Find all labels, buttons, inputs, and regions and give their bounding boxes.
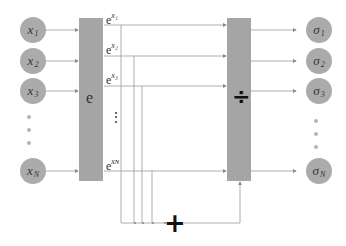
input-node-x2: x2	[20, 48, 46, 74]
exp-output-ellipsis: ⋮	[109, 114, 123, 122]
output-node-sigma3: σ3	[306, 78, 332, 104]
input-node-x3: x3	[20, 78, 46, 104]
softmax-diagram: x1 x2 x3 xN e ex₁ ex₂ ex₃ ⋮ exɴ + ÷ σ1 σ…	[0, 0, 346, 246]
output-node-sigma2: σ2	[306, 48, 332, 74]
exp-output-2: ex₂	[106, 42, 118, 58]
output-node-sigma1: σ1	[306, 17, 332, 43]
exp-output-N: exɴ	[106, 158, 119, 174]
input-node-xN: xN	[20, 158, 46, 184]
exp-output-1: ex₁	[106, 12, 118, 28]
sum-symbol: +	[164, 210, 186, 236]
input-node-x1: x1	[20, 17, 46, 43]
input-ellipsis	[27, 115, 31, 154]
divide-symbol: ÷	[232, 86, 250, 108]
output-ellipsis	[314, 119, 318, 158]
output-node-sigmaN: σN	[306, 158, 332, 184]
exp-block-label: e	[86, 89, 93, 107]
exp-output-3: ex₃	[106, 72, 118, 88]
